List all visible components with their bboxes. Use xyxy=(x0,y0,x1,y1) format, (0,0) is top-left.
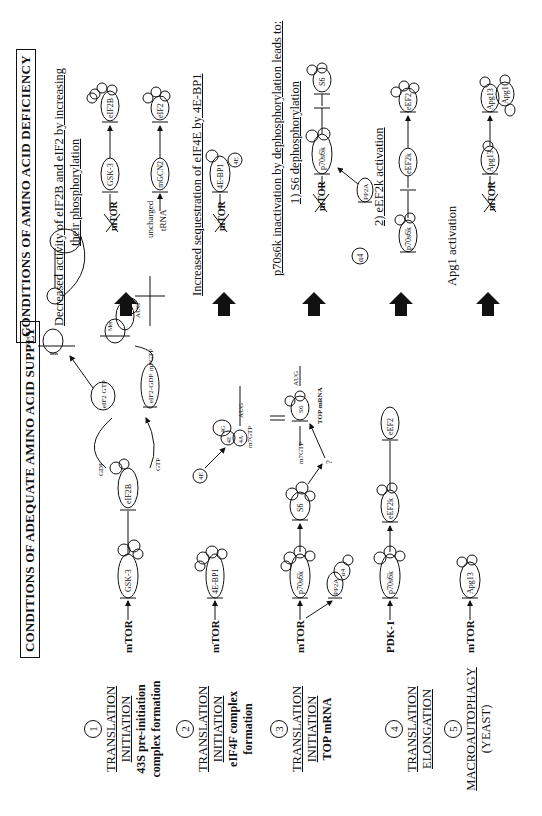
pp2a-label: PP2A xyxy=(332,579,340,595)
met-label-2: Met xyxy=(107,321,113,331)
block2-heading: Increased sequestration of eIF4E by 4E-B… xyxy=(190,73,205,296)
r-mtor-4: mTOR xyxy=(486,180,497,211)
s6-label-2: S6 xyxy=(297,405,305,413)
top-mrna-label: TOP mRNA xyxy=(316,387,324,424)
aug-label-2: AUG xyxy=(237,403,245,418)
r-4e: 4E xyxy=(232,157,240,165)
row2-mtor: mTOR xyxy=(209,619,221,653)
4g-label: 4G xyxy=(220,425,226,433)
aug-label-3: AUG xyxy=(292,371,300,386)
apg13-label: Apg13 xyxy=(466,572,475,594)
r-apg13-2: Apg13 xyxy=(486,88,495,110)
r-gsk3: GSK-3 xyxy=(106,163,115,186)
eef2-label: eEF2 xyxy=(386,418,395,435)
r-uncharged: uncharged xyxy=(145,200,155,238)
block1-heading: Decreased activity of eIF2B and eIF2 by … xyxy=(52,68,67,326)
unknown-label: ? xyxy=(324,460,334,464)
gdp-label: GDP xyxy=(97,462,105,476)
alpha4-label: α4 xyxy=(339,568,347,576)
4e-label: 4E xyxy=(226,436,232,443)
eif2-gdp-label: eIF2-GDP xyxy=(147,374,155,403)
row1-mtor: mTOR xyxy=(122,619,134,653)
r-p70s6k: p70s6k xyxy=(318,147,327,170)
block1-heading-2: their phosphorylation xyxy=(68,139,83,246)
block3-sub2: 2) eEF2k activation xyxy=(372,127,387,226)
r-mtor-3: mTOR xyxy=(316,180,327,211)
m7gtp-label-3: m7GTP xyxy=(297,442,305,464)
r-eef2: eEF2 xyxy=(404,93,413,110)
diagram-stage: CONDITIONS OF ADEQUATE AMINO ACID SUPPLY… xyxy=(0,0,542,816)
r-p70s6k-2: p70s6k xyxy=(404,227,413,250)
aug-label: AUG xyxy=(134,303,142,318)
r-pp2a: PP2A xyxy=(362,184,370,200)
r-mtor-2: mTOR xyxy=(216,200,227,231)
r-alpha4: α4 xyxy=(356,254,365,262)
block3-heading: p70s6k inactivation by dephosphorylation… xyxy=(270,21,285,276)
met-label: Met xyxy=(25,336,31,346)
p70s6k-label: p70s6k xyxy=(296,571,305,594)
r-apg1: Apg1 xyxy=(501,86,510,104)
r-eif2b: eIF2B xyxy=(106,98,115,118)
m7gtp-label: m7GTP xyxy=(147,349,155,371)
r-eef2k: eEF2k xyxy=(404,153,413,174)
r-mgcn2: mGCN2 xyxy=(156,161,165,188)
4ebp1-label: 4E-BP1 xyxy=(211,569,220,594)
free-4e-label: 4E xyxy=(197,472,205,480)
r-apg13: Apg13 xyxy=(486,150,495,172)
gsk3-label: GSK-3 xyxy=(124,569,133,592)
row4-pdk1: PDK-1 xyxy=(384,621,396,653)
row5-mtor: mTOR xyxy=(464,619,476,653)
r-mtor-1: mTOR xyxy=(108,200,119,231)
p70s6k-label-2: p70s6k xyxy=(386,571,395,594)
eef2k-label: eEF2k xyxy=(386,498,395,519)
r-4ebp1: 4E-BP1 xyxy=(216,164,225,189)
r-trna: tRNA xyxy=(158,209,168,231)
gtp-label: GTP xyxy=(154,458,162,471)
s6-label: S6 xyxy=(296,504,305,512)
eif2-gtp-label: eIF2 GTP xyxy=(100,380,108,408)
eif2b-label: eIF2B xyxy=(124,484,133,504)
r-eif2: eIF2 xyxy=(156,103,165,118)
r-s6: S6 xyxy=(318,78,327,86)
m7gtp-label-2: m7GTP xyxy=(246,426,254,448)
block3-sub1: 1) S6 dephosphorylation xyxy=(288,81,303,204)
4a-label: 4A xyxy=(238,435,244,443)
row3-mtor: mTOR xyxy=(294,619,306,653)
block4-heading: Apg1 activation xyxy=(445,206,460,286)
